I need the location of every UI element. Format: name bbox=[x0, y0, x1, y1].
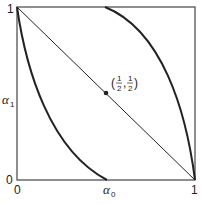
y-axis-label-sub: 1 bbox=[10, 100, 15, 109]
y-tick-1: 1 bbox=[7, 2, 14, 16]
diagram-canvas: ( 1 2 , 1 2 ) 1 0 0 1 α 1 α 0 bbox=[0, 0, 202, 204]
x-tick-0: 0 bbox=[14, 183, 21, 197]
point-label-close-paren: ) bbox=[134, 76, 138, 90]
point-label-num1: 1 bbox=[117, 74, 122, 83]
point-label-den2: 2 bbox=[128, 84, 133, 93]
point-label-open-paren: ( bbox=[111, 76, 115, 90]
x-axis-label: α bbox=[103, 182, 111, 197]
upper-right-curve bbox=[105, 7, 195, 180]
point-label-num2: 1 bbox=[128, 74, 133, 83]
x-tick-1: 1 bbox=[191, 183, 198, 197]
point-label-comma: , bbox=[123, 76, 126, 90]
y-tick-0: 0 bbox=[6, 173, 13, 187]
midpoint-marker bbox=[104, 91, 109, 96]
y-axis-label: α bbox=[2, 92, 10, 107]
lower-left-curve bbox=[17, 7, 107, 180]
x-axis-label-sub: 0 bbox=[111, 190, 116, 199]
point-label-den1: 2 bbox=[117, 84, 122, 93]
